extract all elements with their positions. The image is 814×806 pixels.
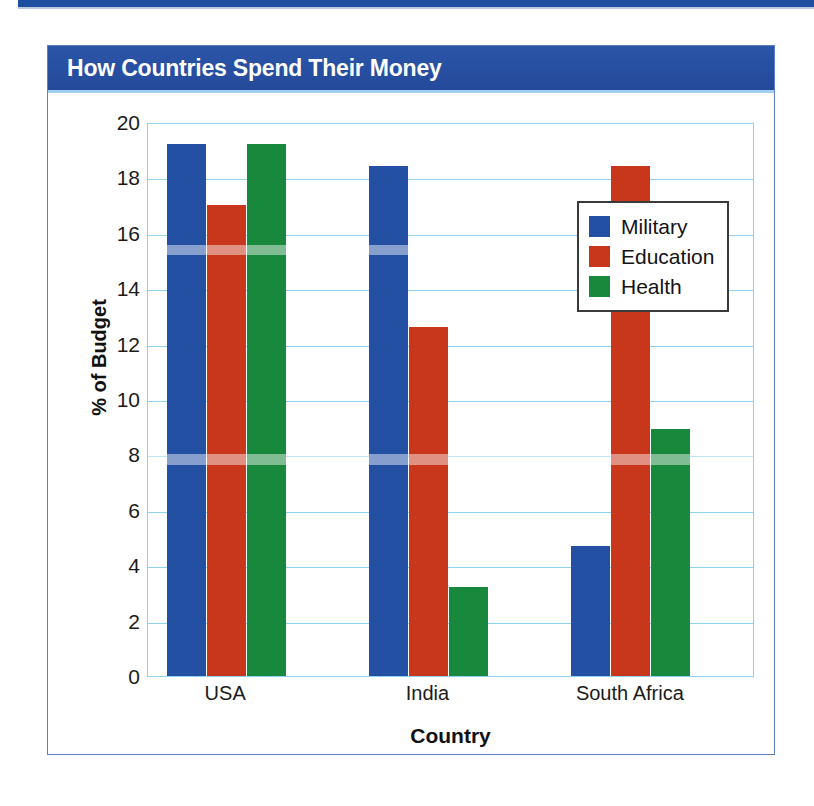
page-top-rule (18, 0, 814, 7)
bar-education-india (409, 327, 448, 676)
bar-health-usa (247, 144, 286, 676)
chart-title-bar: How Countries Spend Their Money (48, 46, 774, 90)
bar-education-usa (207, 205, 246, 676)
y-axis-tick-label: 16 (96, 222, 140, 246)
title-underline-divider (48, 90, 774, 93)
y-axis-tick-label: 2 (96, 610, 140, 634)
gridline (148, 179, 753, 180)
x-axis-title: Country (147, 724, 754, 748)
y-axis-tick-label: 12 (96, 333, 140, 357)
chart-title: How Countries Spend Their Money (67, 55, 442, 82)
bar-military-india (369, 166, 408, 676)
bar-health-india (449, 587, 488, 676)
y-axis-tick-labels: 02468101214161820 (88, 123, 140, 677)
y-axis-tick-label: 4 (96, 554, 140, 578)
x-axis-tick-label: South Africa (530, 682, 730, 705)
legend-item-military[interactable]: Military (589, 211, 717, 241)
legend-item-education[interactable]: Education (589, 241, 717, 271)
bar-health-south-africa (651, 429, 690, 676)
chart-card: How Countries Spend Their Money % of Bud… (47, 45, 775, 755)
legend-swatch-health-icon (589, 276, 610, 297)
y-axis-tick-label: 6 (96, 499, 140, 523)
x-axis-tick-label: USA (125, 682, 325, 705)
bar-military-south-africa (571, 546, 610, 676)
legend-swatch-military-icon (589, 216, 610, 237)
legend-label: Military (621, 216, 688, 237)
legend-label: Education (621, 246, 714, 267)
y-axis-tick-label: 18 (96, 166, 140, 190)
x-axis-tick-label: India (328, 682, 528, 705)
y-axis-tick-label: 14 (96, 277, 140, 301)
chart-legend: MilitaryEducationHealth (577, 201, 729, 312)
legend-swatch-education-icon (589, 246, 610, 267)
y-axis-tick-label: 20 (96, 111, 140, 135)
page-top-rule-shadow (18, 7, 814, 9)
y-axis-tick-label: 8 (96, 443, 140, 467)
legend-label: Health (621, 276, 682, 297)
y-axis-tick-label: 10 (96, 388, 140, 412)
bar-military-usa (167, 144, 206, 676)
legend-item-health[interactable]: Health (589, 271, 717, 301)
